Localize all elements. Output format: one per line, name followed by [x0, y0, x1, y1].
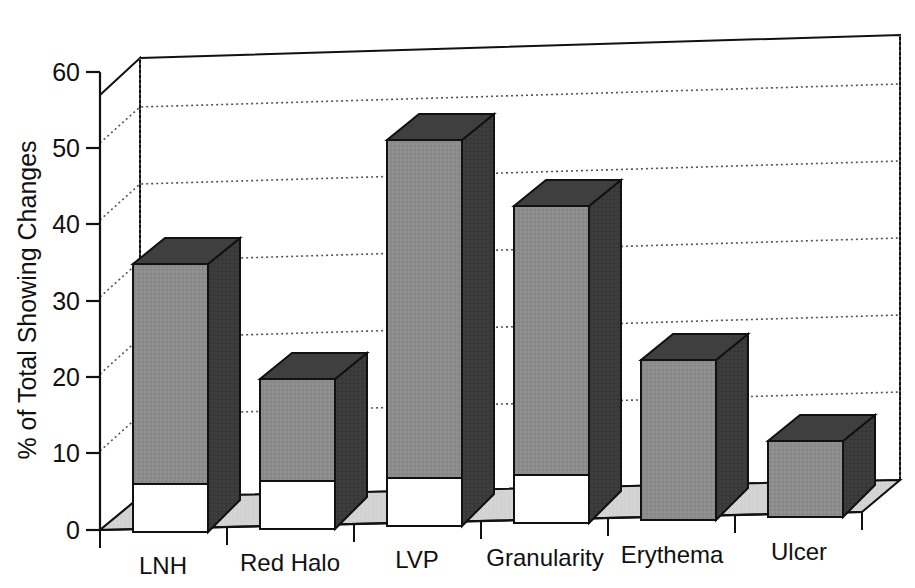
bar-red-halo[interactable]	[260, 353, 367, 529]
y-tick-50: 50	[52, 134, 80, 162]
y-tick-40: 40	[52, 210, 80, 238]
x-label-granularity: Granularity	[486, 544, 603, 571]
x-label-ulcer: Ulcer	[771, 538, 827, 565]
y-tick-30: 30	[52, 287, 80, 315]
y-axis: 60 50 40 30 20 10 0	[52, 58, 100, 544]
y-tick-10: 10	[52, 439, 80, 467]
bar-erythema[interactable]	[641, 334, 748, 520]
bar-chart-3d: 60 50 40 30 20 10 0 % of Total Showing C…	[0, 0, 915, 588]
x-label-erythema: Erythema	[621, 541, 724, 568]
bar-granularity[interactable]	[514, 180, 621, 523]
bar-ulcer[interactable]	[768, 415, 875, 517]
x-label-red-halo: Red Halo	[240, 549, 340, 576]
chart-container: 60 50 40 30 20 10 0 % of Total Showing C…	[0, 0, 915, 588]
y-tick-20: 20	[52, 363, 80, 391]
y-tick-60: 60	[52, 58, 80, 86]
bar-lnh[interactable]	[133, 238, 240, 532]
x-label-lnh: LNH	[139, 552, 187, 579]
y-axis-title: % of Total Showing Changes	[13, 140, 41, 459]
x-label-lvp: LVP	[395, 546, 439, 573]
y-tick-0: 0	[66, 516, 80, 544]
bar-lvp[interactable]	[387, 114, 494, 526]
